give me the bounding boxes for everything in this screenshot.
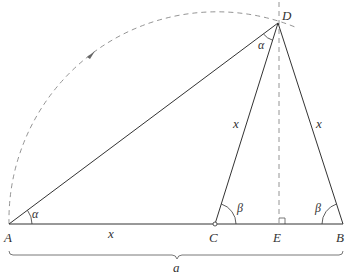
angle-arc-beta-C bbox=[221, 204, 236, 224]
label-point-A: A bbox=[3, 230, 12, 245]
label-segment-DB: x bbox=[315, 116, 322, 131]
brace-a bbox=[9, 251, 343, 259]
label-angle-alpha-D: α bbox=[258, 38, 265, 52]
label-angle-beta-B: β bbox=[314, 201, 321, 215]
angle-arc-beta-B bbox=[322, 204, 337, 224]
angle-arc-alpha-D bbox=[264, 34, 273, 40]
label-point-D: D bbox=[281, 8, 292, 23]
label-point-C: C bbox=[209, 230, 218, 245]
right-angle-mark bbox=[279, 218, 285, 224]
label-point-B: B bbox=[336, 230, 344, 245]
segment-CD bbox=[215, 23, 278, 224]
arc-arrow-icon bbox=[87, 51, 95, 59]
label-segment-AC: x bbox=[107, 226, 114, 241]
label-point-E: E bbox=[272, 230, 281, 245]
label-angle-alpha-A: α bbox=[32, 207, 39, 221]
triangle-diagram: A B C D E α α β β x x x a bbox=[0, 0, 352, 276]
label-segment-CD: x bbox=[232, 116, 239, 131]
point-C-marker bbox=[213, 222, 217, 226]
label-angle-beta-C: β bbox=[236, 201, 243, 215]
segment-DB bbox=[278, 23, 343, 224]
label-brace-a: a bbox=[173, 260, 180, 275]
